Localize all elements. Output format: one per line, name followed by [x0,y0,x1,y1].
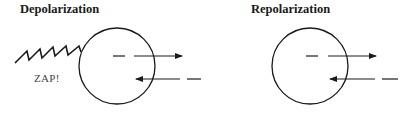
repolarization-panel [272,28,398,104]
zap-label: ZAP! [34,72,60,84]
diagram-canvas [0,0,406,113]
depolarization-panel [15,28,201,104]
stimulus-zigzag [15,46,81,63]
cell-circle [272,28,348,104]
cell-circle [79,28,155,104]
